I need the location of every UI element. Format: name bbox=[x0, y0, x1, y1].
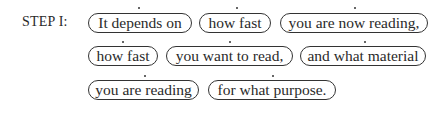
phrase-pill: for what purpose. bbox=[208, 80, 336, 100]
fixation-dot bbox=[122, 41, 124, 43]
phrase-pill: you want to read, bbox=[166, 46, 293, 66]
phrase-pill: and what material bbox=[300, 46, 426, 66]
fixation-dot bbox=[138, 7, 140, 9]
fixation-dot bbox=[364, 41, 366, 43]
phrase-pill: how fast bbox=[88, 46, 158, 66]
phrase-pill: you are reading bbox=[88, 80, 199, 100]
fixation-dot bbox=[229, 41, 231, 43]
phrase-pill: It depends on bbox=[88, 13, 192, 33]
step-label: STEP I: bbox=[22, 14, 68, 30]
fixation-dot bbox=[272, 75, 274, 77]
phrase-pill: you are now reading, bbox=[280, 13, 428, 33]
fixation-dot bbox=[354, 7, 356, 9]
fixation-dot bbox=[236, 7, 238, 9]
phrase-pill: how fast bbox=[199, 13, 271, 33]
fixation-dot bbox=[144, 75, 146, 77]
